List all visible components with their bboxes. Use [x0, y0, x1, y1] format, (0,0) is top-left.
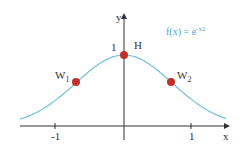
point-W1 — [72, 78, 80, 86]
x-axis-arrow — [224, 123, 230, 129]
y-tick-label-1: 1 — [111, 42, 117, 53]
gaussian-plot — [0, 0, 241, 154]
label-H: H — [134, 40, 142, 51]
tick-label-neg1: -1 — [51, 131, 60, 142]
y-axis-label: y — [116, 12, 122, 23]
point-W2 — [167, 78, 175, 86]
label-W2: W2 — [177, 70, 191, 81]
tick-label-pos1: 1 — [189, 131, 195, 142]
gaussian-curve — [20, 55, 226, 119]
function-label: f(x) = e-x2 — [166, 25, 205, 37]
point-H — [120, 51, 128, 59]
label-W1: W1 — [55, 70, 69, 81]
x-axis-label: x — [223, 131, 229, 142]
